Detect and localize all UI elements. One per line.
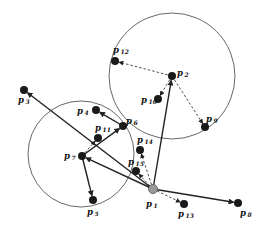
label-p1: p1 xyxy=(146,199,158,209)
node-p13 xyxy=(180,200,188,208)
dashed-edge-p2-p9 xyxy=(172,76,203,123)
edge-p7-p5 xyxy=(82,156,92,196)
nodes xyxy=(20,57,242,208)
dashed-edge-p2-p12 xyxy=(119,62,172,76)
tree-diagram: p1p2p3p4p5p6p7p8p9p10p11p12p13p14p15 xyxy=(0,0,266,229)
label-p13: p13 xyxy=(178,209,194,219)
label-p15: p15 xyxy=(128,157,144,167)
node-p1 xyxy=(149,185,158,194)
label-p11: p11 xyxy=(95,123,111,133)
label-p9: p9 xyxy=(206,114,218,124)
edge-p1-p8 xyxy=(153,189,234,202)
label-p4: p4 xyxy=(77,106,89,116)
label-p2: p2 xyxy=(177,68,189,78)
label-p7: p7 xyxy=(64,151,76,161)
node-p12 xyxy=(111,57,119,65)
range-circles xyxy=(28,13,235,207)
node-p5 xyxy=(89,196,97,204)
node-p7 xyxy=(78,152,86,160)
label-p8: p8 xyxy=(240,208,252,218)
node-labels: p1p2p3p4p5p6p7p8p9p10p11p12p13p14p15 xyxy=(18,45,252,219)
label-p3: p3 xyxy=(18,95,30,105)
node-p4 xyxy=(92,106,100,114)
edges xyxy=(28,62,234,202)
node-p3 xyxy=(20,86,28,94)
label-p12: p12 xyxy=(113,45,129,55)
label-p5: p5 xyxy=(87,207,99,217)
edge-p6-p4 xyxy=(100,112,123,126)
node-p8 xyxy=(234,199,242,207)
node-p14 xyxy=(136,146,144,154)
node-p9 xyxy=(201,123,209,131)
node-p15 xyxy=(132,167,140,175)
node-p11 xyxy=(94,134,102,142)
diagram-canvas: p1p2p3p4p5p6p7p8p9p10p11p12p13p14p15 xyxy=(0,0,266,229)
label-p14: p14 xyxy=(137,135,153,145)
node-p2 xyxy=(168,72,176,80)
